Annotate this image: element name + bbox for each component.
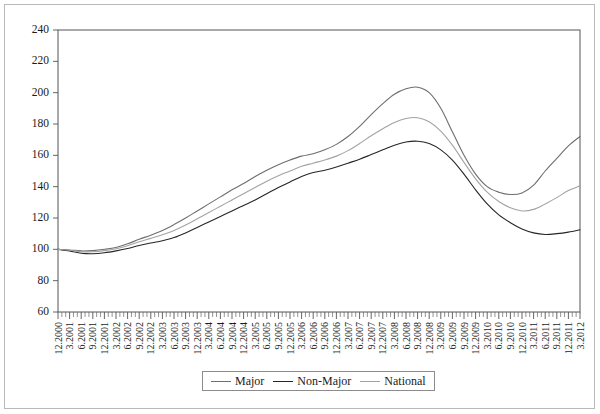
x-tick-label: 9.2001 xyxy=(87,322,98,350)
chart-figure: 6080100120140160180200220240 12.20003.20… xyxy=(0,0,600,414)
x-tick-label: 12.2006 xyxy=(331,322,342,355)
x-tick-label: 12.2007 xyxy=(377,322,388,355)
x-tick-label: 12.2000 xyxy=(53,322,64,355)
y-tick-label: 80 xyxy=(38,274,50,286)
x-tick-label: 9.2010 xyxy=(505,322,516,350)
x-tick-label: 9.2005 xyxy=(273,322,284,350)
chart-legend: MajorNon-MajorNational xyxy=(202,371,435,391)
y-axis: 6080100120140160180200220240 xyxy=(32,23,58,317)
y-tick-label: 200 xyxy=(32,86,50,98)
legend-label: National xyxy=(384,374,425,389)
y-tick-label: 220 xyxy=(32,54,50,66)
x-tick-label: 9.2008 xyxy=(412,322,423,350)
x-tick-label: 3.2001 xyxy=(64,322,75,350)
x-tick-label: 12.2003 xyxy=(192,322,203,355)
x-tick-label: 3.2006 xyxy=(296,322,307,350)
x-tick-label: 12.2009 xyxy=(470,322,481,355)
x-tick-label: 9.2003 xyxy=(180,322,191,350)
legend-entry-national: National xyxy=(360,374,425,389)
x-tick-label: 9.2006 xyxy=(319,322,330,350)
legend-line-swatch xyxy=(211,381,231,382)
x-tick-label: 9.2007 xyxy=(366,322,377,350)
x-tick-label: 6.2009 xyxy=(447,322,458,350)
legend-line-swatch xyxy=(360,381,380,382)
y-tick-label: 120 xyxy=(32,211,50,223)
x-tick-label: 6.2004 xyxy=(215,322,226,350)
series-line-non-major xyxy=(58,141,580,254)
series-line-national xyxy=(58,118,580,252)
x-axis: 12.20003.20016.20019.200112.20013.20026.… xyxy=(53,312,586,355)
x-tick-label: 12.2001 xyxy=(99,322,110,355)
legend-entry-major: Major xyxy=(211,374,264,389)
x-tick-label: 6.2008 xyxy=(401,322,412,350)
x-tick-label: 9.2009 xyxy=(459,322,470,350)
x-tick-label: 3.2010 xyxy=(482,322,493,350)
legend-label: Major xyxy=(235,374,264,389)
legend-entry-non-major: Non-Major xyxy=(273,374,351,389)
x-tick-label: 3.2008 xyxy=(389,322,400,350)
x-tick-label: 6.2003 xyxy=(169,322,180,350)
x-tick-label: 3.2005 xyxy=(250,322,261,350)
x-tick-label: 3.2003 xyxy=(157,322,168,350)
y-tick-label: 100 xyxy=(32,242,50,254)
line-chart: 6080100120140160180200220240 12.20003.20… xyxy=(0,0,600,414)
y-tick-label: 160 xyxy=(32,148,50,160)
x-tick-label: 6.2006 xyxy=(308,322,319,350)
x-tick-label: 6.2005 xyxy=(261,322,272,350)
x-tick-label: 3.2007 xyxy=(343,322,354,350)
legend-line-swatch xyxy=(273,381,293,382)
x-tick-label: 9.2004 xyxy=(227,322,238,350)
x-tick-label: 3.2009 xyxy=(435,322,446,350)
x-tick-label: 9.2002 xyxy=(134,322,145,350)
x-tick-label: 9.2011 xyxy=(551,322,562,349)
x-tick-label: 3.2012 xyxy=(575,322,586,350)
y-tick-label: 60 xyxy=(38,305,50,317)
x-tick-label: 12.2011 xyxy=(563,322,574,354)
x-tick-label: 6.2011 xyxy=(540,322,551,349)
series-line-major xyxy=(58,87,580,251)
x-tick-label: 6.2007 xyxy=(354,322,365,350)
legend-label: Non-Major xyxy=(297,374,351,389)
x-tick-label: 12.2005 xyxy=(285,322,296,355)
x-tick-label: 12.2004 xyxy=(238,322,249,355)
x-tick-label: 12.2002 xyxy=(145,322,156,355)
x-tick-label: 3.2011 xyxy=(528,322,539,349)
x-tick-label: 6.2002 xyxy=(122,322,133,350)
x-tick-label: 12.2008 xyxy=(424,322,435,355)
y-tick-label: 180 xyxy=(32,117,50,129)
y-tick-label: 240 xyxy=(32,23,50,35)
series-lines xyxy=(58,87,580,254)
x-tick-label: 6.2001 xyxy=(76,322,87,350)
x-tick-label: 6.2010 xyxy=(493,322,504,350)
x-tick-label: 3.2002 xyxy=(111,322,122,350)
x-tick-label: 12.2010 xyxy=(517,322,528,355)
y-tick-label: 140 xyxy=(32,180,50,192)
x-tick-label: 3.2004 xyxy=(203,322,214,350)
